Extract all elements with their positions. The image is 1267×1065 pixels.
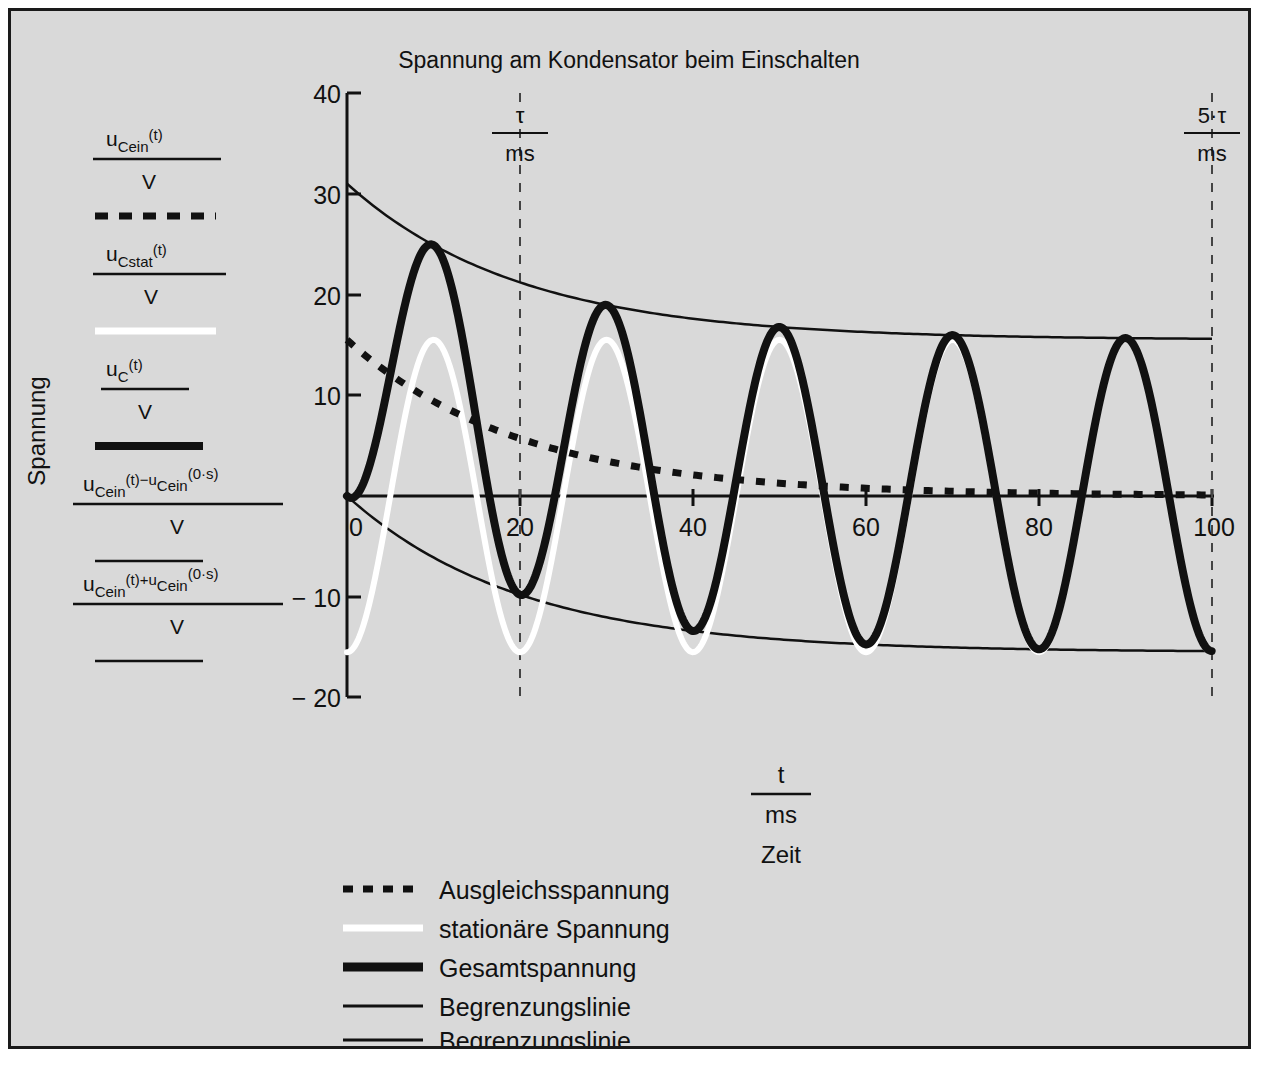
legend-label-5: Begrenzungslinie <box>439 1027 631 1046</box>
legend-item-4: Begrenzungslinie <box>343 993 631 1021</box>
y-tick-label-30: 30 <box>313 181 341 209</box>
axis-legend-formula-1: uCein(t) <box>106 126 163 155</box>
upper-envelope-curve <box>347 184 1212 339</box>
tau-numerator: τ <box>516 103 525 128</box>
chart-frame: Spannung am Kondensator beim Einschalten… <box>8 8 1251 1049</box>
chart-svg: Spannung am Kondensator beim Einschalten… <box>11 11 1248 1046</box>
bottom-legend: Ausgleichsspannung stationäre Spannung G… <box>343 876 670 1046</box>
x-axis-denominator: ms <box>765 801 797 828</box>
y-tick-label-neg20: − 20 <box>292 684 341 712</box>
axis-legend-denominator-1: V <box>142 170 156 193</box>
total-voltage-curve <box>347 244 1212 651</box>
axis-legend-denominator-2: V <box>144 285 158 308</box>
y-ticks <box>347 93 361 697</box>
x-tick-label-40: 40 <box>679 513 707 541</box>
legend-item-2: stationäre Spannung <box>343 915 670 943</box>
chart-page: Spannung am Kondensator beim Einschalten… <box>0 0 1267 1065</box>
axis-legend-entry-5: uCein(t)+uCein(0·s) V <box>73 565 283 661</box>
axis-legend-entry-1: uCein(t) V <box>93 126 221 216</box>
y-tick-label-10: 10 <box>313 382 341 410</box>
axis-legend-entry-2: uCstat(t) V <box>93 241 226 331</box>
x-tick-label-60: 60 <box>852 513 880 541</box>
legend-item-3: Gesamtspannung <box>343 954 636 982</box>
x-tick-label-80: 80 <box>1025 513 1053 541</box>
axis-legend-entry-4: uCein(t)−uCein(0·s) V <box>73 465 283 561</box>
axis-legend-formula-4: uCein(t)−uCein(0·s) <box>83 465 219 500</box>
legend-item-1: Ausgleichsspannung <box>343 876 670 904</box>
chart-title: Spannung am Kondensator beim Einschalten <box>398 47 860 73</box>
legend-label-3: Gesamtspannung <box>439 954 636 982</box>
five-tau-denominator: ms <box>1197 141 1226 166</box>
tau-denominator: ms <box>505 141 534 166</box>
legend-label-4: Begrenzungslinie <box>439 993 631 1021</box>
axis-legend-denominator-3: V <box>138 400 152 423</box>
lower-envelope-curve <box>347 496 1212 651</box>
legend-item-5: Begrenzungslinie <box>343 1027 631 1046</box>
axis-legend-formula-5: uCein(t)+uCein(0·s) <box>83 565 219 600</box>
y-tick-label-40: 40 <box>313 80 341 108</box>
five-tau-numerator: 5·τ <box>1198 103 1227 128</box>
y-tick-label-20: 20 <box>313 282 341 310</box>
axis-legend-denominator-4: V <box>170 515 184 538</box>
x-tick-label-100: 100 <box>1193 513 1235 541</box>
axis-legend: uCein(t) V uCstat(t) V <box>73 126 283 661</box>
y-tick-label-neg10: − 10 <box>292 584 341 612</box>
axis-legend-formula-3: uC(t) <box>106 356 143 385</box>
axis-legend-entry-3: uC(t) V <box>95 356 203 446</box>
x-axis-title: t ms Zeit <box>751 761 811 868</box>
x-axis-label-text: Zeit <box>761 841 801 868</box>
x-tick-label-0: 0 <box>349 513 363 541</box>
x-axis-numerator: t <box>778 761 785 788</box>
y-axis-title: Spannung <box>23 376 50 485</box>
legend-label-2: stationäre Spannung <box>439 915 670 943</box>
legend-label-1: Ausgleichsspannung <box>439 876 670 904</box>
plot-area: Spannung am Kondensator beim Einschalten… <box>11 11 1248 1046</box>
axis-legend-formula-2: uCstat(t) <box>106 241 167 270</box>
axis-legend-denominator-5: V <box>170 615 184 638</box>
